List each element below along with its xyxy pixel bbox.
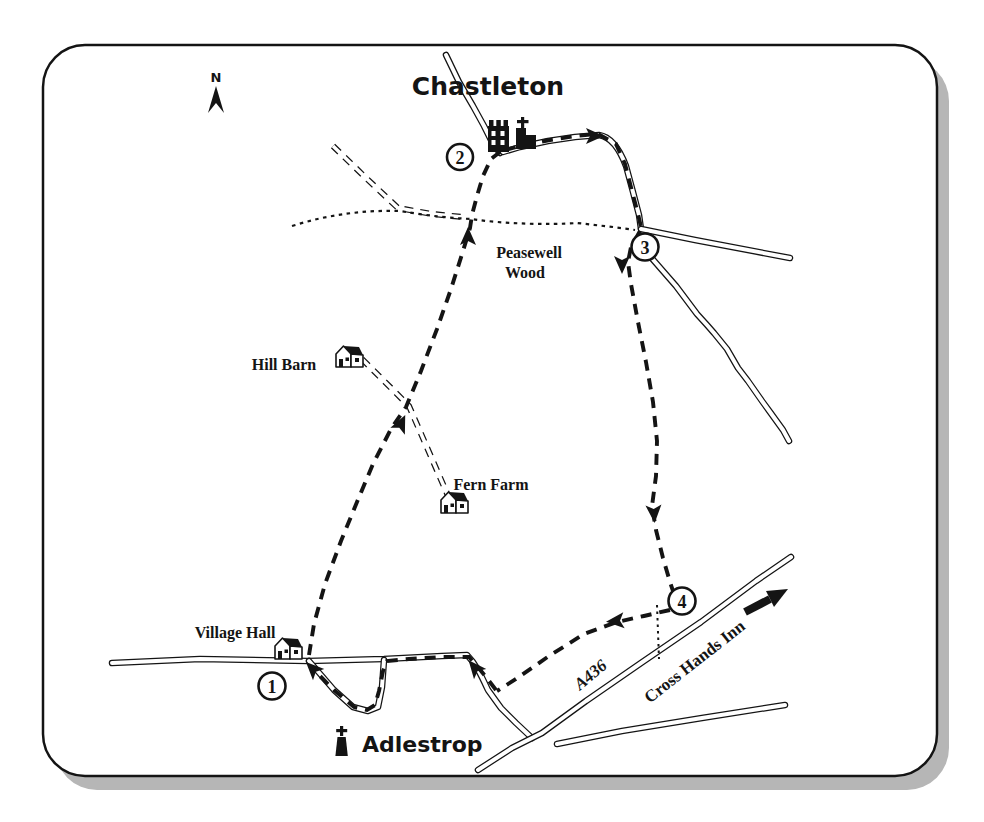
waypoint-2-marker: 2 xyxy=(447,144,473,170)
north-label: N xyxy=(211,70,222,85)
waypoint-2-number: 2 xyxy=(456,148,465,168)
waypoint-4-marker: 4 xyxy=(669,588,696,615)
waypoint-1-marker: 1 xyxy=(259,673,286,700)
house-icon-fern-farm xyxy=(441,492,468,513)
walk-map: N 1 2 3 4 Chastleton Peasewell Wood Hill… xyxy=(0,0,984,822)
house-icon-hill-barn xyxy=(336,346,363,367)
adlestrop-church-icon xyxy=(335,726,347,756)
hill-barn-label: Hill Barn xyxy=(252,356,317,373)
fern-farm-label: Fern Farm xyxy=(453,476,529,493)
peasewell-wood-label-line2: Wood xyxy=(505,264,545,281)
map-page: N 1 2 3 4 Chastleton Peasewell Wood Hill… xyxy=(0,0,984,822)
chastleton-label: Chastleton xyxy=(412,72,564,101)
map-panel xyxy=(43,45,937,776)
waypoint-3-number: 3 xyxy=(641,238,650,258)
house-icon-village-hall xyxy=(275,638,302,659)
peasewell-wood-label-line1: Peasewell xyxy=(496,244,562,261)
village-hall-label: Village Hall xyxy=(195,624,276,642)
chastleton-house-icon xyxy=(488,120,509,152)
adlestrop-label: Adlestrop xyxy=(362,732,483,757)
waypoint-1-number: 1 xyxy=(268,677,277,697)
waypoint-4-number: 4 xyxy=(678,592,687,612)
waypoint-3-marker: 3 xyxy=(632,234,659,261)
